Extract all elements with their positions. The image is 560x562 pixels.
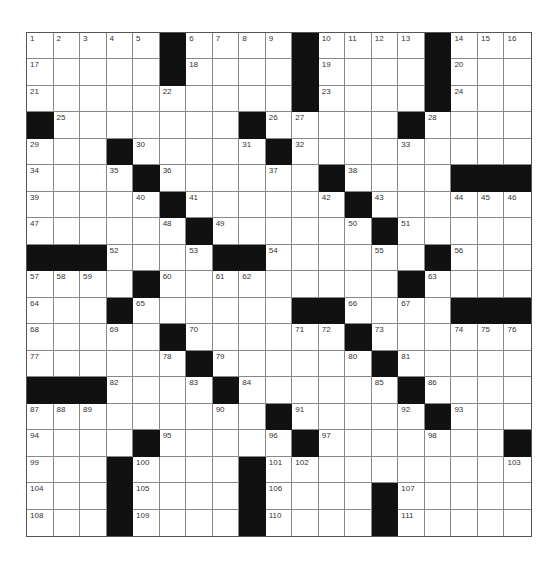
grid-cell[interactable]: 29 (27, 139, 54, 165)
grid-cell[interactable] (292, 192, 319, 218)
grid-cell[interactable]: 70 (186, 324, 213, 350)
grid-cell[interactable] (80, 351, 107, 377)
grid-cell[interactable] (107, 430, 134, 456)
grid-cell[interactable]: 86 (425, 377, 452, 403)
grid-cell[interactable]: 46 (504, 192, 531, 218)
grid-cell[interactable] (266, 351, 293, 377)
grid-cell[interactable]: 42 (319, 192, 346, 218)
grid-cell[interactable] (160, 483, 187, 509)
grid-cell[interactable]: 38 (345, 165, 372, 191)
grid-cell[interactable] (186, 86, 213, 112)
grid-cell[interactable] (319, 245, 346, 271)
grid-cell[interactable] (478, 139, 505, 165)
grid-cell[interactable] (80, 430, 107, 456)
grid-cell[interactable]: 103 (504, 457, 531, 483)
grid-cell[interactable]: 66 (345, 298, 372, 324)
grid-cell[interactable]: 110 (266, 510, 293, 536)
grid-cell[interactable] (239, 218, 266, 244)
grid-cell[interactable] (80, 298, 107, 324)
grid-cell[interactable] (504, 59, 531, 85)
grid-cell[interactable] (425, 192, 452, 218)
grid-cell[interactable] (292, 377, 319, 403)
grid-cell[interactable] (107, 218, 134, 244)
grid-cell[interactable] (186, 430, 213, 456)
grid-cell[interactable]: 101 (266, 457, 293, 483)
grid-cell[interactable] (319, 377, 346, 403)
grid-cell[interactable] (80, 165, 107, 191)
grid-cell[interactable] (133, 218, 160, 244)
grid-cell[interactable]: 32 (292, 139, 319, 165)
grid-cell[interactable] (160, 245, 187, 271)
grid-cell[interactable] (504, 245, 531, 271)
grid-cell[interactable]: 31 (239, 139, 266, 165)
grid-cell[interactable] (266, 271, 293, 297)
grid-cell[interactable]: 9 (266, 33, 293, 59)
grid-cell[interactable]: 95 (160, 430, 187, 456)
grid-cell[interactable]: 28 (425, 112, 452, 138)
grid-cell[interactable] (107, 59, 134, 85)
grid-cell[interactable]: 51 (398, 218, 425, 244)
grid-cell[interactable] (345, 112, 372, 138)
grid-cell[interactable]: 104 (27, 483, 54, 509)
grid-cell[interactable] (425, 457, 452, 483)
grid-cell[interactable] (186, 510, 213, 536)
grid-cell[interactable]: 36 (160, 165, 187, 191)
grid-cell[interactable] (266, 192, 293, 218)
grid-cell[interactable] (319, 271, 346, 297)
grid-cell[interactable]: 47 (27, 218, 54, 244)
grid-cell[interactable]: 52 (107, 245, 134, 271)
grid-cell[interactable] (504, 351, 531, 377)
grid-cell[interactable] (504, 404, 531, 430)
grid-cell[interactable] (239, 404, 266, 430)
grid-cell[interactable]: 5 (133, 33, 160, 59)
grid-cell[interactable]: 11 (345, 33, 372, 59)
grid-cell[interactable] (213, 59, 240, 85)
grid-cell[interactable] (478, 218, 505, 244)
grid-cell[interactable] (160, 404, 187, 430)
grid-cell[interactable]: 44 (451, 192, 478, 218)
grid-cell[interactable] (239, 351, 266, 377)
grid-cell[interactable] (372, 271, 399, 297)
grid-cell[interactable]: 107 (398, 483, 425, 509)
grid-cell[interactable] (504, 510, 531, 536)
grid-cell[interactable] (478, 483, 505, 509)
grid-cell[interactable]: 43 (372, 192, 399, 218)
grid-cell[interactable]: 24 (451, 86, 478, 112)
grid-cell[interactable]: 84 (239, 377, 266, 403)
grid-cell[interactable]: 37 (266, 165, 293, 191)
grid-cell[interactable]: 77 (27, 351, 54, 377)
grid-cell[interactable]: 91 (292, 404, 319, 430)
grid-cell[interactable]: 15 (478, 33, 505, 59)
grid-cell[interactable] (213, 139, 240, 165)
grid-cell[interactable] (213, 298, 240, 324)
grid-cell[interactable]: 99 (27, 457, 54, 483)
grid-cell[interactable] (80, 139, 107, 165)
grid-cell[interactable] (80, 510, 107, 536)
grid-cell[interactable] (133, 245, 160, 271)
grid-cell[interactable] (372, 298, 399, 324)
grid-cell[interactable] (213, 86, 240, 112)
grid-cell[interactable] (398, 192, 425, 218)
grid-cell[interactable] (451, 351, 478, 377)
grid-cell[interactable]: 108 (27, 510, 54, 536)
grid-cell[interactable] (292, 351, 319, 377)
grid-cell[interactable] (345, 139, 372, 165)
grid-cell[interactable] (345, 59, 372, 85)
grid-cell[interactable] (54, 165, 81, 191)
grid-cell[interactable] (478, 404, 505, 430)
grid-cell[interactable] (478, 245, 505, 271)
grid-cell[interactable] (478, 59, 505, 85)
grid-cell[interactable] (213, 192, 240, 218)
grid-cell[interactable] (239, 165, 266, 191)
grid-cell[interactable]: 22 (160, 86, 187, 112)
grid-cell[interactable] (398, 165, 425, 191)
grid-cell[interactable] (186, 139, 213, 165)
grid-cell[interactable]: 62 (239, 271, 266, 297)
grid-cell[interactable]: 65 (133, 298, 160, 324)
grid-cell[interactable] (319, 483, 346, 509)
grid-cell[interactable]: 57 (27, 271, 54, 297)
grid-cell[interactable] (345, 404, 372, 430)
grid-cell[interactable] (372, 457, 399, 483)
grid-cell[interactable] (213, 324, 240, 350)
grid-cell[interactable]: 23 (319, 86, 346, 112)
